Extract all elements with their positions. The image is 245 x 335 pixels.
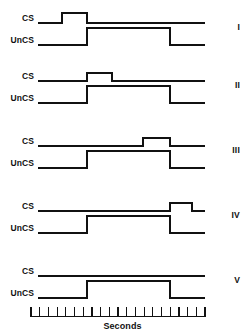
axis-tick-group <box>31 307 205 316</box>
panel-III-uncs-trace <box>38 151 205 168</box>
time-axis-ticks <box>0 303 245 321</box>
panel-II-traces <box>0 62 245 110</box>
panel-II: CS UnCS II <box>0 62 245 110</box>
time-axis: Seconds <box>0 303 245 335</box>
panel-numeral-II: II <box>235 80 240 90</box>
panel-V-traces <box>0 257 245 305</box>
panel-II-uncs-trace <box>38 86 205 103</box>
panel-V-uncs-trace <box>38 281 205 298</box>
panel-numeral-III: III <box>232 145 240 155</box>
panel-numeral-V: V <box>234 275 240 285</box>
panel-numeral-I: I <box>237 22 240 32</box>
panel-IV-cs-trace <box>38 203 205 211</box>
axis-caption: Seconds <box>0 321 245 331</box>
panel-numeral-IV: IV <box>232 210 240 220</box>
panel-I-uncs-trace <box>38 28 205 45</box>
panel-IV-traces <box>0 192 245 240</box>
panel-V: CS UnCS V <box>0 257 245 305</box>
panel-IV: CS UnCS IV <box>0 192 245 240</box>
panel-III: CS UnCS III <box>0 127 245 175</box>
panel-I-traces <box>0 4 245 52</box>
panel-IV-uncs-trace <box>38 216 205 233</box>
panel-III-cs-trace <box>38 138 205 146</box>
panel-II-cs-trace <box>38 73 205 81</box>
panel-I-cs-trace <box>38 13 205 23</box>
panel-I: CS UnCS I <box>0 4 245 52</box>
conditioning-timing-figure: CS UnCS I CS UnCS II CS UnCS III CS UnCS <box>0 0 245 335</box>
panel-III-traces <box>0 127 245 175</box>
